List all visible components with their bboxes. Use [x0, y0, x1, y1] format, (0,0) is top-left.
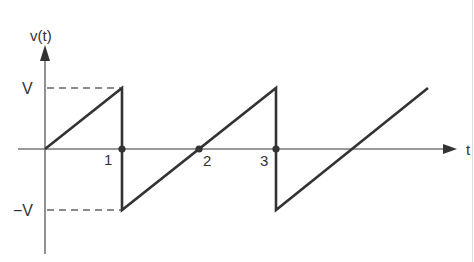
x-axis-label: t [466, 141, 471, 158]
tick-label-1: 1 [104, 151, 112, 168]
v-level-label: V [22, 80, 33, 97]
tick-label-2: 2 [203, 152, 211, 169]
point-t1 [118, 145, 125, 152]
frame-border [472, 0, 473, 262]
y-axis-arrow-icon [40, 45, 50, 61]
neg-v-level-label: −V [13, 202, 33, 219]
point-t3 [272, 145, 279, 152]
sawtooth-diagram: v(t) t V −V 1 2 3 [0, 0, 474, 262]
point-t2 [195, 145, 202, 152]
y-axis-label: v(t) [30, 27, 52, 44]
x-axis-arrow-icon [443, 144, 457, 154]
tick-label-3: 3 [260, 152, 268, 169]
